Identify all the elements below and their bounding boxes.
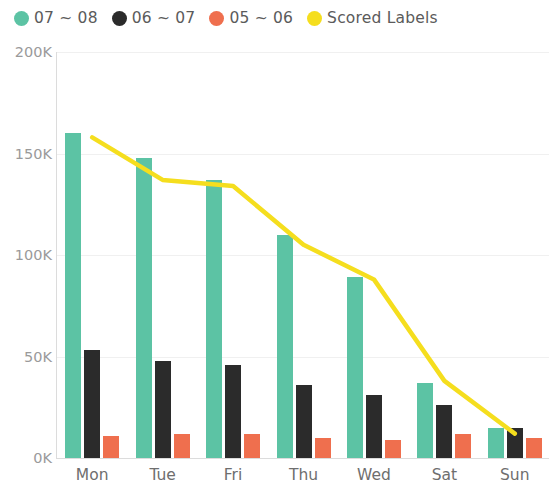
x-tick-label: Thu xyxy=(289,466,318,484)
circle-yellow-icon xyxy=(307,11,322,26)
circle-black-icon xyxy=(112,11,127,26)
line-series-layer xyxy=(0,30,557,488)
x-tick-label: Wed xyxy=(357,466,391,484)
x-tick-label: Tue xyxy=(149,466,175,484)
x-tick-label: Mon xyxy=(76,466,109,484)
line-series-svg xyxy=(0,30,557,488)
chart-legend: 07 ~ 08 06 ~ 07 05 ~ 06 Scored Labels xyxy=(14,6,438,30)
legend-label-2: 05 ~ 06 xyxy=(229,9,293,27)
x-tick-label: Fri xyxy=(224,466,242,484)
legend-label-3: Scored Labels xyxy=(327,9,438,27)
legend-label-0: 07 ~ 08 xyxy=(34,9,98,27)
legend-item-1[interactable]: 06 ~ 07 xyxy=(112,9,196,27)
line-series-path[interactable] xyxy=(92,137,515,433)
legend-item-0[interactable]: 07 ~ 08 xyxy=(14,9,98,27)
legend-label-1: 06 ~ 07 xyxy=(132,9,196,27)
circle-orange-icon xyxy=(209,11,224,26)
x-tick-label: Sat xyxy=(432,466,457,484)
circle-teal-icon xyxy=(14,11,29,26)
bar-chart: 07 ~ 08 06 ~ 07 05 ~ 06 Scored Labels 0K… xyxy=(0,0,557,488)
plot-area: 0K50K100K150K200K MonTueFriThuWedSatSun xyxy=(0,30,557,488)
legend-item-3[interactable]: Scored Labels xyxy=(307,9,438,27)
x-tick-label: Sun xyxy=(500,466,530,484)
legend-item-2[interactable]: 05 ~ 06 xyxy=(209,9,293,27)
